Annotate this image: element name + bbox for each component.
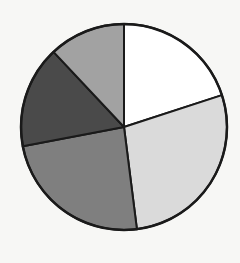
pie-chart — [0, 0, 240, 263]
